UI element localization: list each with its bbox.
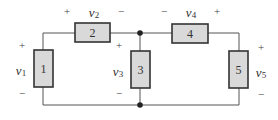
element-2: 2 + − v2 xyxy=(64,5,124,43)
circuit-diagram: 1 + − v1 2 + − v2 3 + − v3 4 − + v4 5 + … xyxy=(0,0,278,120)
element-1: 1 + − v1 xyxy=(16,39,53,99)
element-1-voltage: v1 xyxy=(16,63,26,79)
element-2-voltage: v2 xyxy=(89,5,99,21)
wire-bottom xyxy=(43,87,239,105)
wire-1-2 xyxy=(43,33,75,50)
element-3-voltage: v3 xyxy=(113,64,124,80)
wire-4-5 xyxy=(208,33,239,51)
element-5-minus: − xyxy=(258,88,264,100)
node-top xyxy=(137,30,143,36)
node-bottom xyxy=(137,102,143,108)
element-4-voltage: v4 xyxy=(186,5,197,21)
element-1-label: 1 xyxy=(41,62,47,76)
element-2-label: 2 xyxy=(90,26,96,40)
element-3: 3 + − v3 xyxy=(113,39,150,99)
element-1-minus: − xyxy=(19,87,25,99)
element-1-plus: + xyxy=(19,39,25,51)
element-4: 4 − + v4 xyxy=(161,5,220,44)
element-3-label: 3 xyxy=(138,63,144,77)
element-2-minus: − xyxy=(118,5,124,17)
element-4-minus: − xyxy=(161,5,167,17)
element-5-voltage: v5 xyxy=(256,65,267,81)
element-5-plus: + xyxy=(258,41,264,53)
element-3-plus: + xyxy=(116,39,122,51)
element-2-plus: + xyxy=(64,5,70,17)
element-4-label: 4 xyxy=(187,27,193,41)
element-5: 5 + − v5 xyxy=(229,41,267,100)
element-3-minus: − xyxy=(116,87,122,99)
element-5-label: 5 xyxy=(236,63,242,77)
element-4-plus: + xyxy=(214,5,220,17)
